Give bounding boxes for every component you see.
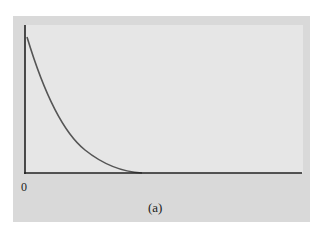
chart-svg	[0, 0, 325, 237]
decay-curve	[27, 37, 142, 173]
x-tick-label-zero: 0	[21, 180, 27, 195]
figure-caption: (a)	[148, 200, 162, 216]
